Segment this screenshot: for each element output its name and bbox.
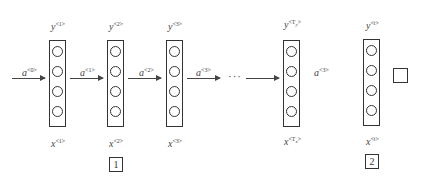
- hidden-unit: [52, 46, 63, 57]
- hidden-unit: [286, 66, 297, 77]
- activation-label-0: a<0>: [22, 65, 37, 78]
- hidden-unit: [366, 85, 377, 96]
- hidden-unit: [169, 106, 180, 117]
- rnn-cell-2: [107, 40, 124, 127]
- activation-label-4: a<3>: [314, 65, 329, 78]
- hidden-unit: [286, 46, 297, 57]
- arrow-a0: [12, 78, 45, 79]
- output-label-3: y<3>: [168, 19, 182, 32]
- hidden-unit: [52, 106, 63, 117]
- rnn-cell-t: [363, 39, 380, 126]
- rnn-cell-final: [283, 40, 300, 127]
- answer-box-2: 2: [365, 154, 379, 169]
- hidden-unit: [286, 106, 297, 117]
- blank-square: [393, 68, 408, 83]
- activation-label-2: a<2>: [139, 65, 154, 78]
- hidden-unit: [366, 105, 377, 116]
- hidden-unit: [366, 45, 377, 56]
- answer-box-1: 1: [109, 157, 123, 172]
- arrow-to-final: [246, 78, 279, 79]
- rnn-diagram: a<0> y<1> x<1> a<1> y<2> x<2> a<2> y<3> …: [0, 0, 421, 184]
- output-label-5: y<t>: [366, 18, 379, 31]
- input-label-1: x<1>: [51, 136, 65, 149]
- ellipsis: ···: [228, 70, 242, 82]
- input-label-2: x<2>: [109, 136, 123, 149]
- hidden-unit: [169, 86, 180, 97]
- hidden-unit: [110, 106, 121, 117]
- input-label-4: x<Tx>: [284, 134, 301, 147]
- output-label-1: y<1>: [51, 19, 65, 32]
- input-label-3: x<3>: [168, 136, 182, 149]
- hidden-unit: [169, 66, 180, 77]
- hidden-unit: [366, 65, 377, 76]
- hidden-unit: [286, 86, 297, 97]
- arrow-a1: [70, 78, 103, 79]
- rnn-cell-1: [49, 40, 66, 127]
- hidden-unit: [110, 46, 121, 57]
- output-label-2: y<2>: [109, 19, 123, 32]
- input-label-5: x<t>: [366, 134, 379, 147]
- arrow-a3: [187, 78, 220, 79]
- hidden-unit: [169, 46, 180, 57]
- arrow-a2: [128, 78, 161, 79]
- activation-label-3: a<3>: [196, 65, 211, 78]
- output-label-4: y<Ty>: [284, 17, 301, 30]
- hidden-unit: [110, 66, 121, 77]
- hidden-unit: [110, 86, 121, 97]
- activation-label-1: a<1>: [80, 65, 95, 78]
- hidden-unit: [52, 66, 63, 77]
- rnn-cell-3: [166, 40, 183, 127]
- hidden-unit: [52, 86, 63, 97]
